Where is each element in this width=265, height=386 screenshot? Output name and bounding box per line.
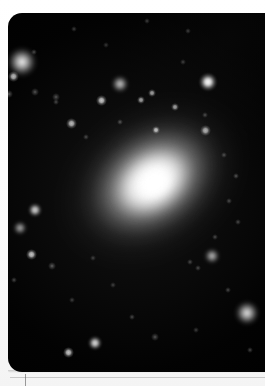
frame-bottom-shadow xyxy=(8,370,265,373)
bottom-rule xyxy=(10,377,265,378)
sky-image-frame xyxy=(8,13,265,372)
registration-tick xyxy=(25,374,26,386)
photographic-plate xyxy=(0,0,265,386)
sky-background-grain xyxy=(8,13,265,372)
